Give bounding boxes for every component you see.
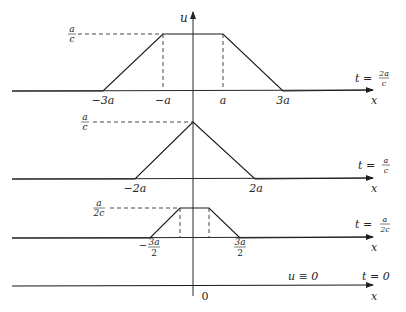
height-den-1: c <box>69 34 74 44</box>
time-num-2: a <box>384 156 389 165</box>
time-den-3: 2c <box>379 225 390 234</box>
time-den-1: c <box>382 79 387 88</box>
panel-t-a-over-2c: a 2c − 3a 2 3a 2 t = a 2c x <box>12 198 390 258</box>
panel-t-0: u ≡ 0 t = 0 x 0 <box>12 270 390 303</box>
time-label-1: t = <box>355 72 372 85</box>
tick-neg-3a-half-den: 2 <box>151 248 157 258</box>
height-num-2: a <box>82 112 87 122</box>
time-label-3: t = <box>355 218 372 231</box>
x-label-1: x <box>371 94 378 107</box>
time-label-4: t = 0 <box>362 270 390 283</box>
tick-neg-3a-half-num: 3a <box>148 237 159 247</box>
height-num-3: a <box>96 198 101 208</box>
time-num-1: 2a <box>378 69 389 78</box>
tick-pos-2a: 2a <box>248 182 263 195</box>
height-den-3: 2c <box>93 208 105 218</box>
time-den-2: c <box>384 166 389 175</box>
panel-t-2a-over-c: a c −3a −a a 3a t = 2a c x <box>12 24 389 107</box>
tick-neg-3a: −3a <box>92 94 115 107</box>
x-label-4: x <box>371 290 378 303</box>
tick-neg-a: −a <box>155 94 171 107</box>
tick-neg-sign: − <box>139 240 147 251</box>
tick-neg-2a: −2a <box>124 182 147 195</box>
tick-pos-3a-half-num: 3a <box>234 237 245 247</box>
height-num-1: a <box>69 24 74 34</box>
u-axis-label: u <box>180 11 188 25</box>
time-num-3: a <box>383 215 388 224</box>
time-label-2: t = <box>358 159 375 172</box>
height-den-2: c <box>82 122 87 132</box>
tick-pos-3a: 3a <box>276 94 290 107</box>
zero-annotation: u ≡ 0 <box>288 270 318 283</box>
tick-pos-3a-half-den: 2 <box>237 248 243 258</box>
x-label-2: x <box>371 182 378 195</box>
wave-evolution-diagram: u a c −3a −a a 3a t = 2a c x a c −2a 2a … <box>0 0 406 312</box>
origin-label: 0 <box>202 290 209 303</box>
x-axis-4 <box>12 285 373 286</box>
x-label-3: x <box>371 241 378 254</box>
tick-pos-a: a <box>220 94 227 107</box>
panel-t-a-over-c: a c −2a 2a t = a c x <box>12 112 390 195</box>
